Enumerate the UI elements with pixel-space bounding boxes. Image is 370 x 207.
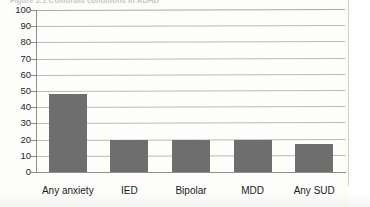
bar bbox=[110, 140, 148, 172]
y-axis-tick-label: 90 bbox=[1, 21, 31, 31]
bar bbox=[234, 140, 272, 172]
gridline bbox=[37, 25, 345, 27]
page-margin bbox=[349, 0, 370, 207]
x-axis-labels: Any anxietyIEDBipolarMDDAny SUD bbox=[0, 186, 352, 206]
bar bbox=[172, 140, 210, 172]
bar bbox=[49, 94, 87, 172]
y-axis-tick-label: 0 bbox=[1, 167, 31, 177]
y-axis-tick-label: 60 bbox=[1, 70, 31, 80]
bar bbox=[295, 144, 333, 172]
gridline bbox=[37, 41, 345, 43]
y-axis-tick-label: 100 bbox=[1, 5, 31, 15]
gridline bbox=[37, 9, 345, 11]
gridline bbox=[37, 74, 345, 76]
gridline bbox=[37, 58, 345, 60]
y-axis-tick-label: 20 bbox=[1, 135, 31, 145]
figure-caption: Figure 2.1 Comorbid conditions in ADHD bbox=[10, 0, 260, 6]
x-axis-line bbox=[36, 172, 346, 173]
y-axis-tick-label: 40 bbox=[1, 102, 31, 112]
y-axis-tick-label: 30 bbox=[1, 118, 31, 128]
y-axis-tick-label: 80 bbox=[1, 37, 31, 47]
bar-chart: 0102030405060708090100 Any anxietyIEDBip… bbox=[0, 8, 352, 178]
y-axis-tick-label: 50 bbox=[1, 86, 31, 96]
y-axis-tick-label: 70 bbox=[1, 54, 31, 64]
gridline bbox=[37, 90, 345, 92]
y-axis-labels: 0102030405060708090100 bbox=[0, 8, 31, 178]
y-axis-tick-label: 10 bbox=[1, 151, 31, 161]
plot-area bbox=[37, 10, 345, 172]
